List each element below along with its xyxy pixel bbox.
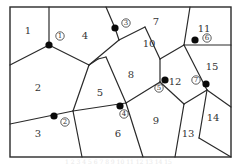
figure-caption: 1 2 3 4 5 6 7 8 9 10 11 12 13 14 15	[0, 158, 237, 167]
border-segment	[199, 138, 231, 157]
site-marker-label-7: 7	[194, 76, 198, 84]
region-label-15: 15	[206, 61, 219, 72]
site-dot-2	[50, 112, 57, 119]
border-segment	[73, 111, 82, 157]
site-dot-3	[111, 24, 118, 31]
region-label-8: 8	[128, 69, 134, 80]
region-label-3: 3	[35, 128, 41, 139]
region-label-7: 7	[153, 16, 159, 27]
region-label-10: 10	[143, 38, 156, 49]
region-labels: 123456789101112131415	[25, 16, 220, 139]
border-segment	[119, 27, 145, 40]
border-segment	[106, 57, 126, 103]
border-segment	[10, 45, 49, 65]
border-segment	[184, 90, 207, 104]
border-segment	[207, 90, 231, 107]
site-dot-5	[161, 76, 168, 83]
border-segment	[126, 82, 160, 103]
region-label-9: 9	[153, 115, 159, 126]
region-label-13: 13	[182, 128, 195, 139]
region-label-11: 11	[198, 23, 211, 34]
border-segment	[89, 40, 119, 65]
site-marker-label-6: 6	[205, 34, 210, 42]
region-label-5: 5	[97, 87, 103, 98]
site-dot-4	[116, 102, 123, 109]
site-dot-6	[191, 36, 198, 43]
region-label-4: 4	[82, 30, 88, 41]
region-label-1: 1	[25, 25, 31, 36]
site-dot-7	[202, 80, 209, 87]
region-label-14: 14	[207, 112, 220, 123]
site-marker-label-3: 3	[124, 19, 128, 27]
border-segment	[184, 7, 190, 45]
partition-diagram: 123456789101112131415 1234567	[0, 0, 237, 167]
site-marker-label-2: 2	[63, 118, 67, 126]
site-marker-label-1: 1	[58, 32, 62, 40]
site-dot-1	[45, 41, 52, 48]
site-marker-label-5: 5	[157, 84, 161, 92]
border-segment	[126, 103, 143, 157]
region-label-6: 6	[115, 128, 121, 139]
region-label-12: 12	[169, 76, 182, 87]
site-marker-label-4: 4	[122, 110, 127, 118]
border-segment	[73, 65, 89, 111]
border-segment	[160, 45, 184, 59]
region-label-2: 2	[35, 82, 41, 93]
border-segment	[49, 45, 89, 65]
border-segment	[98, 57, 106, 59]
